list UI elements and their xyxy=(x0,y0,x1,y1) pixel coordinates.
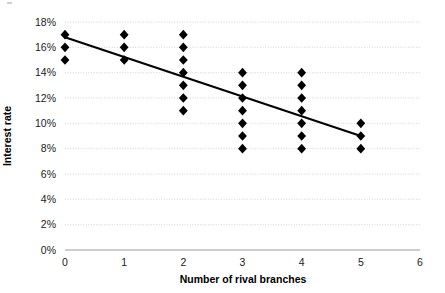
data-point-marker xyxy=(238,81,247,91)
y-tick-label: 14% xyxy=(35,66,56,78)
y-tick-label: 0% xyxy=(41,244,56,256)
data-point-marker xyxy=(297,93,306,103)
data-point-marker xyxy=(179,43,188,53)
x-tick-labels-group: 0123456 xyxy=(62,256,423,268)
data-point-marker xyxy=(297,106,306,116)
x-tick-label: 5 xyxy=(358,256,364,268)
data-point-marker xyxy=(179,81,188,91)
data-point-marker xyxy=(356,131,365,141)
data-point-marker xyxy=(179,93,188,103)
data-point-marker xyxy=(238,144,247,154)
data-point-marker xyxy=(297,131,306,141)
scatter-chart-figure: 0%2%4%6%8%10%12%14%16%18% 0123456 Number… xyxy=(0,0,445,293)
trendline-group xyxy=(65,37,361,136)
y-tick-label: 16% xyxy=(35,41,56,53)
trend-line xyxy=(65,37,361,136)
chart-canvas: 0%2%4%6%8%10%12%14%16%18% 0123456 Number… xyxy=(0,0,445,293)
data-point-marker xyxy=(356,119,365,129)
data-point-marker xyxy=(297,144,306,154)
x-tick-label: 6 xyxy=(417,256,423,268)
data-point-marker xyxy=(120,30,129,40)
data-point-marker xyxy=(297,68,306,78)
y-tick-label: 12% xyxy=(35,92,56,104)
y-tick-labels-group: 0%2%4%6%8%10%12%14%16%18% xyxy=(35,16,56,256)
data-markers-group xyxy=(61,30,366,154)
x-tick-label: 0 xyxy=(62,256,68,268)
y-tick-label: 6% xyxy=(41,168,56,180)
data-point-marker xyxy=(61,43,70,53)
data-point-marker xyxy=(120,43,129,53)
x-tick-label: 1 xyxy=(121,256,127,268)
data-point-marker xyxy=(179,55,188,65)
y-tick-label: 2% xyxy=(41,218,56,230)
data-point-marker xyxy=(356,144,365,154)
y-tick-label: 4% xyxy=(41,193,56,205)
y-tick-label: 10% xyxy=(35,117,56,129)
data-point-marker xyxy=(61,55,70,65)
y-axis-title: Interest rate xyxy=(1,106,13,166)
data-point-marker xyxy=(297,81,306,91)
x-tick-label: 2 xyxy=(180,256,186,268)
data-point-marker xyxy=(179,30,188,40)
x-tick-label: 4 xyxy=(299,256,305,268)
data-point-marker xyxy=(238,119,247,129)
x-tick-label: 3 xyxy=(240,256,246,268)
data-point-marker xyxy=(238,131,247,141)
data-point-marker xyxy=(238,106,247,116)
data-point-marker xyxy=(179,106,188,116)
x-axis-title: Number of rival branches xyxy=(180,273,307,285)
y-tick-label: 8% xyxy=(41,142,56,154)
data-point-marker xyxy=(297,119,306,129)
y-tick-label: 18% xyxy=(35,16,56,28)
data-point-marker xyxy=(238,68,247,78)
